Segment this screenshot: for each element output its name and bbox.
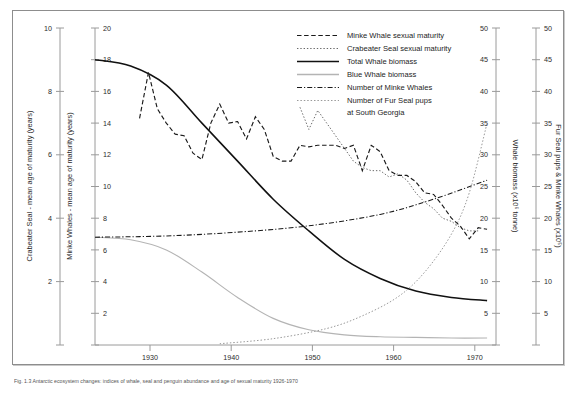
legend-label-5-continuation: at South Georgia [347, 108, 405, 117]
tick-right-outer-7: 15 [544, 246, 552, 255]
tick-right-inner-3: 35 [480, 119, 488, 128]
tick-right-inner-2: 40 [480, 87, 488, 96]
legend-label-5: Number of Fur Seal pups [347, 96, 432, 105]
tick-right-inner-9: 5 [484, 309, 488, 318]
tick-right-inner-4: 30 [480, 150, 488, 159]
tick-right-inner-5: 25 [480, 182, 488, 191]
axis-bottom: 1930 1940 1950 1960 1970 [95, 345, 496, 362]
tick-right-outer-4: 30 [544, 150, 552, 159]
axis-left-outer: 10 8 6 4 2 Crabeater Seal - mean age of … [25, 24, 64, 345]
tick-right-inner-6: 20 [480, 214, 488, 223]
tick-left-inner-0: 20 [103, 24, 111, 33]
tick-bottom-3: 1960 [386, 353, 402, 362]
legend-item-0[interactable]: Minke Whale sexual maturity [297, 31, 444, 40]
legend-label-3: Blue Whale biomass [347, 70, 416, 79]
tick-left-outer-2: 6 [48, 150, 52, 159]
tick-left-outer-1: 8 [48, 87, 52, 96]
legend-item-5[interactable]: Number of Fur Seal pups at South Georgia [297, 96, 432, 117]
legend-item-2[interactable]: Total Whale biomass [297, 57, 417, 66]
tick-bottom-2: 1950 [304, 353, 320, 362]
tick-right-inner-1: 45 [480, 55, 488, 64]
legend-label-4: Number of Minke Whales [347, 83, 432, 92]
axis-title-left-outer: Crabeater Seal - mean age of maturity (y… [25, 111, 34, 262]
tick-left-inner-2: 16 [103, 87, 111, 96]
axis-right-inner: 50 45 40 35 30 25 20 15 10 5 Whale bioma… [480, 24, 520, 345]
series-number-of-minke-whales [95, 180, 487, 237]
tick-right-outer-9: 5 [544, 309, 548, 318]
tick-left-outer-4: 2 [48, 277, 52, 286]
tick-right-outer-5: 25 [544, 182, 552, 191]
tick-bottom-0: 1930 [142, 353, 158, 362]
tick-left-inner-9: 2 [103, 309, 107, 318]
tick-right-inner-7: 15 [480, 246, 488, 255]
chart-svg: 10 8 6 4 2 Crabeater Seal - mean age of … [0, 0, 579, 393]
tick-bottom-1: 1940 [223, 353, 239, 362]
tick-left-inner-3: 14 [103, 119, 111, 128]
tick-left-inner-1: 18 [103, 55, 111, 64]
legend-label-0: Minke Whale sexual maturity [347, 31, 444, 40]
tick-left-inner-8: 4 [103, 277, 107, 286]
series-number-of-fur-seal-pups [220, 123, 487, 344]
tick-right-outer-6: 20 [544, 214, 552, 223]
tick-left-inner-5: 10 [103, 182, 111, 191]
tick-right-outer-2: 40 [544, 87, 552, 96]
axis-title-right-inner: Whale biomass (x10⁶ tonne) [511, 139, 520, 232]
tick-right-outer-1: 45 [544, 55, 552, 64]
axis-left-inner: 20 18 16 14 12 10 8 6 4 2 Minke Whales -… [65, 24, 111, 345]
legend-item-1[interactable]: Crabeater Seal sexual maturity [297, 44, 451, 53]
legend-label-2: Total Whale biomass [347, 57, 417, 66]
axis-title-left-inner: Minke Whales - mean age of maturity (yea… [65, 112, 74, 259]
axis-title-right-outer: Fur Seal pups & Minke Whales (x10⁵) [554, 124, 563, 247]
tick-right-inner-8: 10 [480, 277, 488, 286]
figure-container: 10 8 6 4 2 Crabeater Seal - mean age of … [0, 0, 579, 393]
legend-item-3[interactable]: Blue Whale biomass [297, 70, 416, 79]
tick-left-inner-7: 6 [103, 246, 107, 255]
series-blue-whale-biomass [95, 237, 487, 338]
series-minke-whale-maturity [140, 72, 488, 238]
tick-left-inner-4: 12 [103, 150, 111, 159]
tick-bottom-4: 1970 [467, 353, 483, 362]
tick-left-outer-3: 4 [48, 214, 52, 223]
series-crabeater-seal-maturity [300, 107, 478, 231]
tick-right-inner-0: 50 [480, 24, 488, 33]
legend: Minke Whale sexual maturity Crabeater Se… [297, 31, 451, 117]
legend-item-4[interactable]: Number of Minke Whales [297, 83, 432, 92]
tick-right-outer-3: 35 [544, 119, 552, 128]
tick-right-outer-8: 10 [544, 277, 552, 286]
axis-right-outer: 50 45 40 35 30 25 20 15 10 5 Fur Seal pu… [532, 24, 563, 345]
tick-right-outer-0: 50 [544, 24, 552, 33]
tick-left-inner-6: 8 [103, 214, 107, 223]
tick-left-outer-0: 10 [44, 24, 52, 33]
legend-label-1: Crabeater Seal sexual maturity [347, 44, 451, 53]
figure-caption: Fig. 1.3 Antarctic ecosystem changes: in… [14, 378, 574, 384]
